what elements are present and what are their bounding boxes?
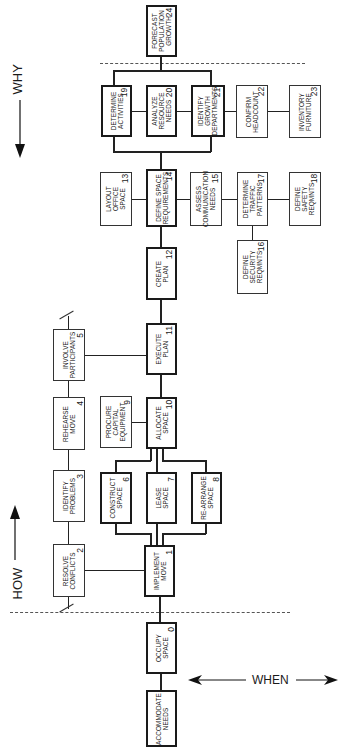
connector <box>162 533 206 535</box>
node-determine-activities: DETERMINEACTIVITIES 19 <box>101 85 132 137</box>
node-identify-problems: IDENTIFYPROBLEMS 3 <box>53 470 85 522</box>
why-arrow-icon <box>15 100 25 164</box>
how-arrow-icon <box>10 505 20 564</box>
connector <box>68 450 69 470</box>
connector <box>160 227 162 247</box>
connector <box>268 199 289 200</box>
connector <box>150 533 152 545</box>
when-label: WHEN <box>252 673 289 687</box>
node-accommodate-needs: ACCOMMODATENEEDS <box>146 690 177 747</box>
node-resolve-conflicts: RESOLVECONFLICTS 2 <box>53 544 85 597</box>
node-construct-space: CONSTRUCTSPACE 6 <box>100 472 132 524</box>
connector <box>156 449 158 472</box>
node-involve-participants: INVOLVEPARTICIPANTS 5 <box>53 329 85 381</box>
connector <box>132 199 146 200</box>
node-determine-traffic-patterns: DETERMINETRAFFICPATTERNS 17 <box>237 172 268 226</box>
connector <box>160 375 162 397</box>
connector <box>159 597 161 622</box>
connector <box>225 111 236 112</box>
connector <box>68 316 69 329</box>
node-lease-space: LEASESPACE 7 <box>146 472 177 524</box>
connector <box>85 570 144 571</box>
connector <box>115 533 151 535</box>
connector <box>68 522 69 544</box>
node-execute-plan: EXECUTEPLAN 11 <box>146 323 177 375</box>
scope-line-bottom <box>10 612 290 613</box>
how-label: HOW <box>10 570 25 600</box>
node-re-arrange-space: RE-ARRANGESPACE 8 <box>191 472 222 524</box>
connector <box>132 422 146 423</box>
node-occupy-space: OCCUPYSPACE 0 <box>146 622 177 674</box>
node-inventory-furniture: INVENTORYFURNITURE 23 <box>289 85 321 138</box>
node-analyze-resource-needs: ANALYZERESOURCENEEDS 20 <box>146 85 177 137</box>
connector <box>160 674 162 690</box>
node-define-space-requirements: DEFINE SPACEREQUIREMENTS 14 <box>146 169 177 227</box>
connector <box>162 533 164 545</box>
node-layout-office-space: LAYOUTOFFICESPACE 13 <box>100 172 132 226</box>
connector <box>85 355 146 356</box>
connector <box>115 460 117 472</box>
scope-line-top <box>100 63 305 64</box>
node-allocate-space: ALLOCATESPACE 10 <box>146 397 177 449</box>
connector <box>210 70 212 85</box>
node-create-plan: CREATEPLAN 12 <box>146 247 177 300</box>
connector <box>113 70 115 85</box>
connector <box>210 137 212 152</box>
connector <box>222 199 237 200</box>
connector <box>268 111 289 112</box>
connector <box>132 111 146 112</box>
node-procure-capital-equipment: PROCURECAPITALEQUIPMENT 9 <box>100 396 132 448</box>
node-confirm-headcount: CONFIRMHEADCOUNT 22 <box>236 85 268 138</box>
break-mark <box>59 311 73 320</box>
why-label: WHY <box>10 65 25 95</box>
connector <box>160 300 162 323</box>
connector <box>177 111 191 112</box>
connector <box>162 460 206 462</box>
node-forecast-population-growth: FORECASTPOPULATIONGROWTH 24 <box>146 5 177 57</box>
connector <box>115 460 151 462</box>
node-identify-growth-departments: IDENTIFYGROWTHDEPARTMENTS 21 <box>191 85 225 137</box>
connector <box>113 70 211 72</box>
node-define-security-reqmnts: DEFINESECURITYREQMNTS 16 <box>237 240 268 294</box>
connector <box>160 57 162 70</box>
connector <box>177 199 190 200</box>
connector <box>113 137 115 152</box>
node-define-safety-reqmnts: DEFINESAFETYREQMNTS 18 <box>289 172 321 226</box>
connector <box>160 151 162 169</box>
node-rehearse-move: REHEARSEMOVE 4 <box>53 397 85 450</box>
connector <box>205 460 207 472</box>
connector <box>156 524 158 545</box>
node-assess-communication-needs: ASSESSCOMMUNICATIONNEEDS 15 <box>190 172 222 226</box>
connector <box>113 151 211 153</box>
connector <box>68 381 69 397</box>
connector <box>252 226 253 240</box>
node-implement-move: IMPLEMENTMOVE 1 <box>144 545 175 597</box>
